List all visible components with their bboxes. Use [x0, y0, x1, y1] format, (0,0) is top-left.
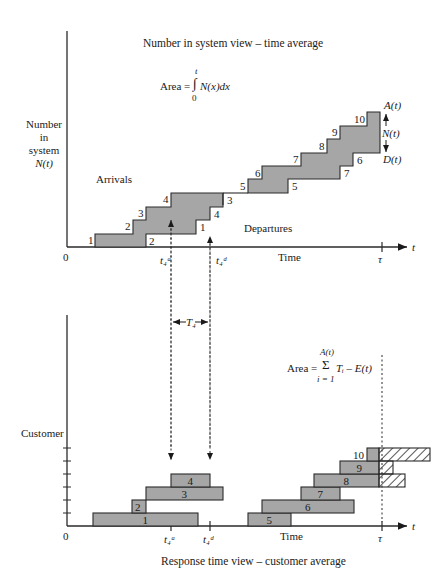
arrival-10: 10: [354, 113, 365, 125]
bottom-t-var: t: [412, 520, 415, 532]
hatched-bar-9: [379, 461, 393, 474]
arrival-4: 4: [163, 193, 169, 205]
bottom-time-label: Time: [280, 530, 303, 542]
sum-lower: i = 1: [317, 373, 335, 385]
integral-lower: 0: [192, 92, 197, 104]
departure-4: 4: [214, 208, 220, 220]
integrand: N(x)dx: [200, 80, 230, 92]
area-N-t: [95, 193, 223, 247]
customer-bar-label: 3: [182, 488, 188, 500]
sum-sign: Σ: [322, 359, 330, 371]
customer-bar-10: [367, 448, 379, 461]
arrival-9: 9: [332, 126, 338, 138]
arrival-1: 1: [88, 234, 94, 246]
arrival-8: 8: [319, 140, 325, 152]
departure-3: 3: [227, 194, 233, 206]
customer-bar-label: 7: [318, 488, 324, 500]
arrival-5: 5: [240, 180, 246, 192]
T4-label: T₄: [186, 316, 196, 328]
y-label-line3: system: [14, 144, 74, 156]
D-t-label: D(t): [383, 153, 401, 165]
A-t-label: A(t): [384, 99, 401, 111]
customer-bars: [93, 448, 379, 526]
customer-bar-label: 2: [135, 501, 141, 513]
arrival-7: 7: [293, 153, 299, 165]
top-tau: τ: [378, 253, 382, 265]
top-t-var: t: [412, 241, 415, 253]
N-t-label: N(t): [382, 127, 400, 139]
customer-bar-label: 1: [143, 514, 149, 526]
arrival-6: 6: [255, 167, 261, 179]
integral-sign: ∫: [193, 78, 197, 90]
hatched-bar-10: [379, 448, 430, 461]
y-label-line2: in: [14, 131, 74, 143]
customer-bar-label: 8: [344, 475, 350, 487]
customer-bar-label: 4: [188, 475, 194, 487]
departure-7: 7: [344, 167, 350, 179]
bottom-origin: 0: [63, 530, 69, 542]
bottom-axes: [63, 315, 407, 531]
departure-6: 6: [357, 154, 363, 166]
departure-1: 1: [200, 221, 206, 233]
hatched-bar-8: [379, 474, 405, 487]
customer-label: Customer: [21, 427, 64, 439]
y-label-line1: Number: [14, 118, 74, 130]
bottom-tau: τ: [378, 532, 382, 544]
top-t4d: t₄ᵈ: [216, 254, 226, 266]
top-t4a: t₄ᵃ: [160, 254, 171, 266]
top-time-label: Time: [278, 251, 301, 263]
bottom-t4a: t₄ᵃ: [164, 533, 175, 545]
top-title: Number in system view – time average: [143, 37, 323, 49]
sum-body: Tᵢ – E(t): [336, 362, 372, 374]
customer-bar-label: 6: [305, 501, 311, 513]
bottom-title: Response time view – customer average: [161, 555, 346, 567]
bottom-t4d: t₄ᵈ: [203, 533, 213, 545]
y-label-line4: N(t): [14, 157, 74, 169]
arrival-3: 3: [138, 207, 144, 219]
arrival-2: 2: [125, 220, 131, 232]
residual-hatched-bars: [379, 448, 430, 487]
departure-2: 2: [149, 235, 155, 247]
bottom-area-prefix: Area =: [287, 362, 317, 374]
arrivals-label: Arrivals: [96, 173, 132, 185]
top-area-prefix: Area =: [160, 80, 190, 92]
t4-connectors: [171, 220, 210, 460]
customer-bar-label: 5: [267, 514, 273, 526]
departure-5: 5: [292, 180, 298, 192]
top-origin: 0: [63, 251, 69, 263]
departures-label: Departures: [244, 222, 292, 234]
customer-bar-label: 9: [357, 462, 363, 474]
customer-bar-label: 10: [353, 449, 364, 461]
